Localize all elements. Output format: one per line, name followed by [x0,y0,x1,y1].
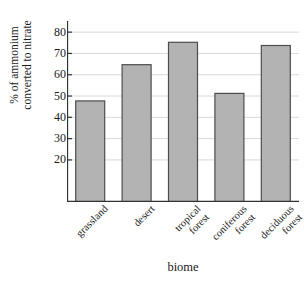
y-tick-label: 50 [36,90,66,102]
y-tick-label: 70 [36,47,66,59]
x-axis-title: biome [67,260,299,275]
bar-series [76,42,291,202]
y-tick-label: 80 [36,26,66,38]
bar [122,65,151,202]
plot-svg [67,21,299,202]
y-tick-label: 20 [36,153,66,165]
bar [261,46,290,203]
y-tick-label: 40 [36,111,66,123]
bar-chart-figure: % of ammonium converted to nitrate 20304… [0,0,304,281]
bar [76,101,105,202]
x-axis-tick-labels: grasslanddeserttropical forestconiferous… [67,203,299,261]
plot-area [67,21,299,202]
y-tick-label: 60 [36,68,66,80]
bar [215,93,244,202]
y-tick-label: 30 [36,132,66,144]
bar [169,42,198,202]
y-axis-title: % of ammonium converted to nitrate [8,0,34,140]
